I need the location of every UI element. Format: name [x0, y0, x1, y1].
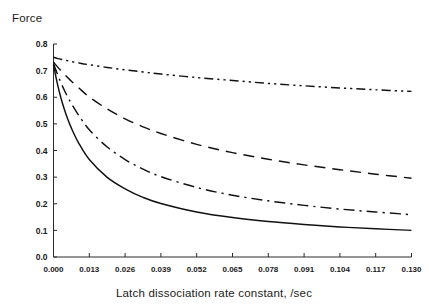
y-tick-label: 0.2	[36, 199, 48, 209]
x-tick-label: 0.013	[79, 265, 100, 274]
chart-figure: Force 0.00.10.20.30.40.50.60.70.8 0.0000…	[0, 0, 429, 307]
series-line-curve-3	[54, 64, 412, 215]
x-tick-label: 0.000	[43, 265, 64, 274]
chart-plot-area: Force 0.00.10.20.30.40.50.60.70.8 0.0000…	[0, 0, 429, 307]
y-tick-label: 0.3	[36, 172, 48, 182]
x-tick-label: 0.039	[151, 265, 172, 274]
x-tick-label: 0.078	[258, 265, 279, 274]
y-tick-label: 0.6	[36, 92, 48, 102]
x-tick-label: 0.052	[187, 265, 208, 274]
x-tick-label: 0.091	[294, 265, 315, 274]
y-tick-label: 0.1	[36, 226, 48, 236]
x-axis-ticks: 0.0000.0130.0260.0390.0520.0650.0780.091…	[43, 253, 422, 274]
x-tick-label: 0.026	[115, 265, 136, 274]
y-tick-label: 0.5	[36, 119, 48, 129]
y-tick-label: 0.8	[36, 39, 48, 49]
x-tick-label: 0.117	[366, 265, 386, 274]
series-line-curve-2	[54, 62, 412, 178]
y-axis-title: Force	[12, 12, 42, 24]
y-tick-label: 0.0	[36, 252, 48, 262]
x-tick-label: 0.130	[401, 265, 422, 274]
y-tick-label: 0.7	[36, 66, 48, 76]
y-tick-label: 0.4	[36, 146, 48, 156]
chart-series-group	[54, 57, 412, 230]
x-tick-label: 0.104	[330, 265, 351, 274]
x-axis-title: Latch dissociation rate constant, /sec	[116, 287, 312, 299]
series-line-curve-1	[54, 57, 412, 91]
x-tick-label: 0.065	[222, 265, 243, 274]
